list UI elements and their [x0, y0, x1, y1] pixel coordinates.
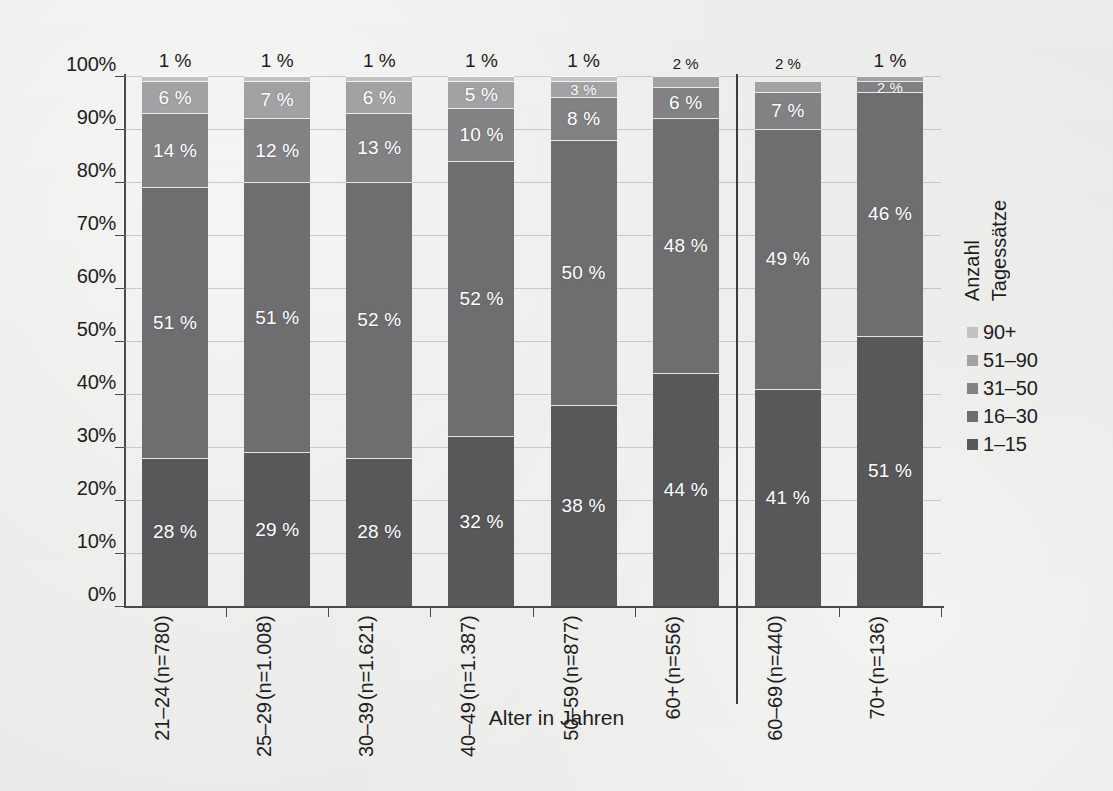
bar-segment-label: 38 %	[562, 495, 606, 517]
bar-segment[interactable]: 28 %	[142, 458, 208, 606]
bar-segment-label: 49 %	[766, 248, 810, 270]
bar-segment-label: 10 %	[459, 124, 503, 146]
bar-column[interactable]: 29 %51 %12 %7 %1 %	[244, 76, 310, 606]
y-axis-tick-label: 50%	[60, 318, 116, 341]
y-axis-tick	[115, 288, 124, 289]
bar-segment[interactable]: 6 %	[346, 81, 412, 113]
legend-item[interactable]: 90+	[967, 320, 1038, 345]
legend-item[interactable]: 1–15	[967, 432, 1038, 457]
bar-segment[interactable]: 48 %	[653, 118, 719, 372]
y-axis-tick-label: 20%	[60, 477, 116, 500]
bar-segment[interactable]: 38 %	[551, 405, 617, 606]
bar-segment[interactable]	[551, 76, 617, 81]
legend-item[interactable]: 31–50	[967, 376, 1038, 401]
bar-column[interactable]: 28 %52 %13 %6 %1 %	[346, 76, 412, 606]
bar-segment[interactable]: 14 %	[142, 113, 208, 187]
bar-segment-label: 52 %	[459, 288, 503, 310]
y-axis-tick-label: 70%	[60, 212, 116, 235]
bar-column[interactable]: 32 %52 %10 %5 %1 %	[448, 76, 514, 606]
y-axis-tick-label-holder: 50%	[60, 330, 116, 353]
bar-segment[interactable]	[448, 76, 514, 81]
bar-top-label: 1 %	[567, 50, 600, 72]
bar-column[interactable]: 38 %50 %8 %3 %1 %	[551, 76, 617, 606]
bar-segment[interactable]	[142, 76, 208, 81]
legend-item[interactable]: 51–90	[967, 348, 1038, 373]
bar-segment[interactable]: 2 %	[857, 81, 923, 92]
x-axis-category-label: 25–29(n=1.008)	[253, 616, 277, 757]
category-count: (n=780)	[151, 616, 175, 684]
y-axis-tick	[115, 182, 124, 183]
legend-swatch	[967, 411, 978, 422]
bar-segment-label: 13 %	[357, 137, 401, 159]
x-axis-line	[124, 606, 944, 608]
bar-segment[interactable]	[244, 76, 310, 81]
y-axis-tick-label-holder: 0%	[60, 595, 116, 618]
bar-segment[interactable]: 5 %	[448, 81, 514, 108]
bar-column[interactable]: 41 %49 %7 %2 %	[755, 76, 821, 606]
x-axis-category-label: 30–39(n=1.621)	[355, 616, 379, 757]
bar-segment[interactable]: 51 %	[142, 187, 208, 457]
bar-segment[interactable]: 41 %	[755, 389, 821, 606]
bar-segment[interactable]: 6 %	[653, 87, 719, 119]
legend-label: 51–90	[983, 349, 1038, 372]
bar-segment[interactable]: 51 %	[244, 182, 310, 452]
bar-column[interactable]: 28 %51 %14 %6 %1 %	[142, 76, 208, 606]
bar-segment[interactable]: 46 %	[857, 92, 923, 336]
legend-item[interactable]: 16–30	[967, 404, 1038, 429]
category-count: (n=1.387)	[457, 616, 481, 700]
y-axis-tick	[115, 129, 124, 130]
stacked-bar-chart: 28 %51 %14 %6 %1 %29 %51 %12 %7 %1 %28 %…	[0, 0, 1113, 791]
bar-segment-label: 6 %	[669, 92, 702, 114]
bar-segment[interactable]: 49 %	[755, 129, 821, 389]
bar-segment[interactable]: 3 %	[551, 81, 617, 97]
bar-segment-label: 51 %	[153, 312, 197, 334]
legend-swatch	[967, 383, 978, 394]
bar-column[interactable]: 51 %46 %2 %1 %	[857, 76, 923, 606]
legend-swatch	[967, 439, 978, 450]
bar-segment-label: 6 %	[158, 87, 191, 109]
y-axis-tick-label-holder: 20%	[60, 489, 116, 512]
bar-segment[interactable]	[755, 81, 821, 92]
bar-segment[interactable]: 52 %	[448, 161, 514, 437]
bar-segment[interactable]: 8 %	[551, 97, 617, 139]
y-axis-tick-label-holder: 70%	[60, 224, 116, 247]
plot-area: 28 %51 %14 %6 %1 %29 %51 %12 %7 %1 %28 %…	[124, 76, 941, 606]
bar-segment-label: 7 %	[771, 100, 804, 122]
bar-segment[interactable]: 50 %	[551, 140, 617, 405]
bar-segment[interactable]: 13 %	[346, 113, 412, 182]
bar-segment[interactable]	[857, 76, 923, 81]
bar-segment-label: 41 %	[766, 487, 810, 509]
bar-segment[interactable]: 6 %	[142, 81, 208, 113]
bar-segment[interactable]: 51 %	[857, 336, 923, 606]
bar-segment[interactable]: 29 %	[244, 452, 310, 606]
bar-segment[interactable]: 12 %	[244, 118, 310, 182]
bar-segment[interactable]: 7 %	[755, 92, 821, 129]
x-axis-tick	[430, 608, 431, 617]
bar-segment[interactable]: 10 %	[448, 108, 514, 161]
y-axis-tick-label: 80%	[60, 159, 116, 182]
category-count: (n=1.008)	[253, 616, 277, 700]
y-axis-tick-label: 90%	[60, 106, 116, 129]
bar-segment-label: 3 %	[570, 81, 596, 98]
bar-top-label: 2 %	[673, 55, 699, 72]
bar-segment[interactable]	[653, 76, 719, 87]
y-axis-tick	[115, 500, 124, 501]
bar-segment-label: 7 %	[261, 89, 294, 111]
y-axis-tick-label: 60%	[60, 265, 116, 288]
legend-swatch	[967, 355, 978, 366]
bar-segment[interactable]	[346, 76, 412, 81]
y-axis-tick-label-holder: 30%	[60, 436, 116, 459]
bar-segment[interactable]: 44 %	[653, 373, 719, 606]
y-axis-tick	[115, 235, 124, 236]
bar-top-label: 1 %	[261, 50, 294, 72]
y-axis-tick-label-holder: 80%	[60, 171, 116, 194]
bar-segment[interactable]: 7 %	[244, 81, 310, 118]
bar-segment[interactable]: 32 %	[448, 436, 514, 606]
bar-segment[interactable]: 52 %	[346, 182, 412, 458]
x-axis-tick	[635, 608, 636, 617]
category-count: (n=556)	[662, 616, 686, 684]
bar-column[interactable]: 44 %48 %6 %2 %	[653, 76, 719, 606]
bar-segment-label: 52 %	[357, 309, 401, 331]
legend-title: Anzahl Tagessätze	[961, 200, 1011, 301]
bar-segment[interactable]: 28 %	[346, 458, 412, 606]
